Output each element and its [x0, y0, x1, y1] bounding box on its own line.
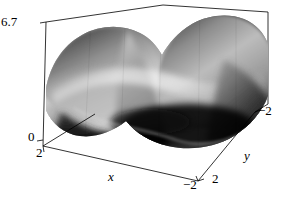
x-axis-tick-label-far: −2: [183, 178, 197, 191]
z-axis-tick-label-max: 6.7: [1, 15, 17, 28]
x-axis-label: x: [108, 170, 114, 183]
y-axis-label: y: [244, 149, 250, 162]
z-axis-tick-label-min: 0: [28, 130, 35, 143]
y-axis-tick-label-near: 2: [212, 172, 219, 185]
plot-canvas: [0, 0, 286, 212]
surface-plot-3d: 6.7 0 2 −2 2 −2 x y: [0, 0, 286, 212]
x-axis-tick-label-near: 2: [36, 146, 43, 159]
surface-mesh: [30, 0, 286, 170]
y-axis-tick-label-far: −2: [258, 104, 272, 117]
